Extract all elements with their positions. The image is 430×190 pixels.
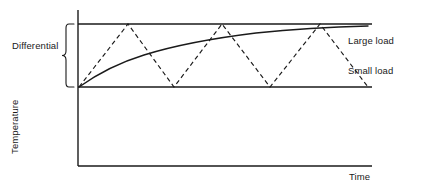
large-load-label: Large load [348, 36, 394, 46]
diagram-canvas [0, 0, 430, 190]
large-load-sawtooth [79, 24, 368, 87]
differential-brace [62, 24, 74, 87]
small-load-curve [79, 26, 368, 87]
y-axis-label: Temperature [10, 87, 20, 167]
x-axis-label: Time [349, 172, 370, 182]
small-load-label: Small load [348, 66, 393, 76]
differential-label: Differential [12, 41, 58, 51]
thermostat-differential-diagram: Differential Large load Small load Time … [0, 0, 430, 190]
